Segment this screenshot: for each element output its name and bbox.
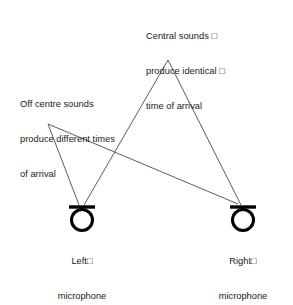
off-centre-annotation-line-3: of arrival (20, 169, 115, 181)
right-microphone-icon (230, 207, 256, 231)
right-microphone-caption-line-1: Right□ (198, 256, 288, 268)
left-microphone-caption-line-2: microphone (37, 291, 127, 303)
right-microphone-caption: Right□ microphone (198, 233, 288, 305)
central-sound-annotation: Central sounds □ produce identical □ tim… (146, 8, 225, 136)
central-annotation-line-3: time of arrival (146, 101, 225, 113)
off-centre-annotation-line-1: Off centre sounds (20, 99, 115, 111)
central-annotation-line-1: Central sounds □ (146, 31, 225, 43)
off-centre-annotation-line-2: produce different times (20, 134, 115, 146)
left-microphone-capsule (72, 210, 93, 231)
left-microphone-caption-line-1: Left□ (37, 256, 127, 268)
right-microphone-caption-line-2: microphone (198, 291, 288, 303)
right-microphone-capsule (233, 210, 254, 231)
left-microphone-icon (69, 207, 95, 231)
off-centre-sound-annotation: Off centre sounds produce different time… (20, 76, 115, 204)
central-annotation-line-2: produce identical □ (146, 66, 225, 78)
left-microphone-caption: Left□ microphone (37, 233, 127, 305)
